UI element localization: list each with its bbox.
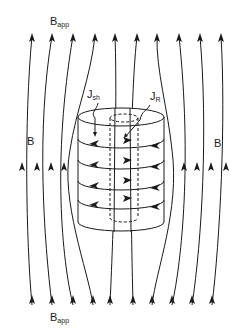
- b-app-bottom-label: Bapp: [50, 312, 69, 324]
- field-line-1: [27, 36, 32, 305]
- top-arrowheads: [29, 33, 224, 42]
- j-sh-label: Jsh: [87, 89, 100, 101]
- bottom-arrowheads: [29, 295, 215, 304]
- b-right-label: B: [214, 138, 221, 149]
- field-line-9: [192, 36, 204, 305]
- outer-cylinder: [78, 108, 164, 231]
- field-line-2: [43, 36, 52, 305]
- field-line-3: [61, 36, 73, 305]
- j-r-label: JR: [150, 91, 161, 103]
- diagram-canvas: [0, 0, 242, 336]
- b-app-top-label: Bapp: [50, 16, 69, 28]
- b-left-label: B: [27, 136, 34, 147]
